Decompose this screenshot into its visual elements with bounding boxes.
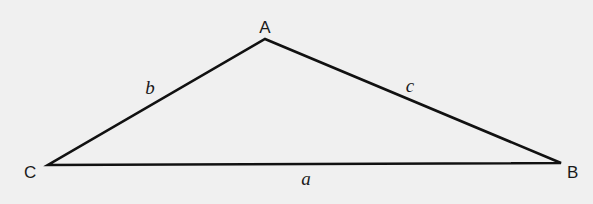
vertex-label-c: C: [24, 163, 36, 182]
triangle-diagram: A B C a b c: [0, 0, 593, 204]
triangle-figure: A B C a b c: [0, 0, 593, 204]
side-label-a: a: [301, 168, 311, 189]
side-label-b: b: [145, 77, 155, 98]
side-label-c: c: [406, 75, 415, 96]
vertex-label-b: B: [567, 163, 578, 182]
vertex-label-a: A: [259, 18, 271, 37]
triangle-abc: [48, 39, 561, 165]
